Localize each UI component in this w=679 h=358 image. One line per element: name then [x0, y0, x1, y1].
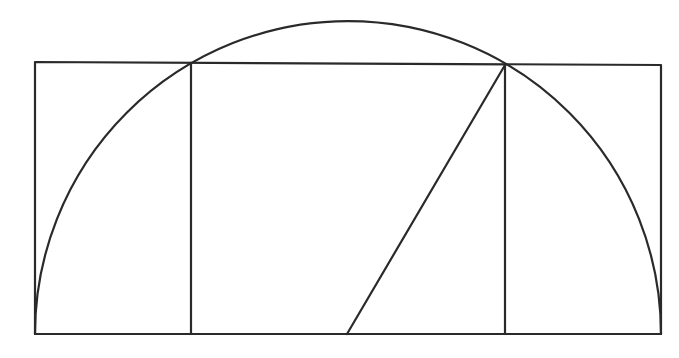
golden-ratio-construction-diagram	[0, 0, 679, 358]
outer-rectangle	[35, 62, 661, 334]
semicircle-arc	[35, 21, 661, 334]
diagram-svg	[0, 0, 679, 358]
diagonal-radius-line	[347, 65, 505, 334]
